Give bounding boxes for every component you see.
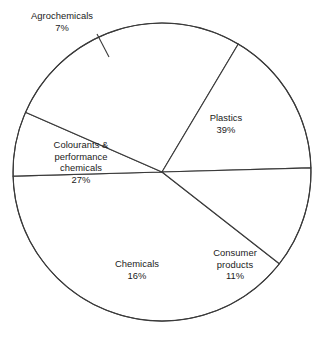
slice-label-colourants: Colourants & performance chemicals 27%	[22, 139, 140, 185]
slice-label-consumer: Consumer products 11%	[192, 247, 278, 282]
pie-chart: Agrochemicals 7% Plastics 39% Colourants…	[0, 0, 327, 340]
slice-label-plastics: Plastics 39%	[178, 112, 274, 135]
slice-label-agrochemicals: Agrochemicals 7%	[6, 10, 118, 33]
slice-label-chemicals: Chemicals 16%	[92, 258, 182, 281]
